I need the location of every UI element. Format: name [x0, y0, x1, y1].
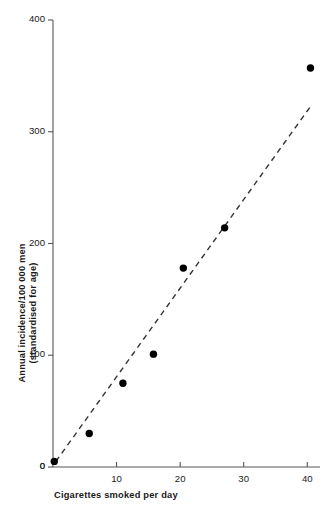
x-tick-label: 20: [165, 473, 195, 484]
x-axis-label: Cigarettes smoked per day: [54, 490, 178, 500]
origin-tick-label: 0: [3, 460, 45, 471]
x-tick-label: 40: [292, 473, 322, 484]
x-tick-label: 10: [102, 473, 132, 484]
y-axis-label-line-1: Annual incidence/100 000 men: [17, 243, 28, 382]
x-tick-label: 30: [229, 473, 259, 484]
data-point-marker: [150, 350, 157, 357]
y-tick-label: 100: [3, 348, 45, 359]
data-point-marker: [119, 379, 126, 386]
data-point-marker: [86, 430, 93, 437]
trend-line-segment: [56, 104, 313, 462]
data-point-marker: [307, 64, 314, 71]
y-tick-label: 200: [3, 237, 45, 248]
chart-figure: Annual incidence/100 000 men (standardis…: [0, 0, 334, 513]
data-point-marker: [51, 458, 58, 465]
data-points: [51, 64, 315, 465]
y-tick-label: 300: [3, 125, 45, 136]
trend-line: [56, 104, 313, 462]
y-axis-ticks: [48, 20, 53, 467]
y-tick-label: 400: [3, 13, 45, 24]
data-point-marker: [221, 224, 228, 231]
y-axis-label: Annual incidence/100 000 men (standardis…: [15, 223, 41, 403]
x-axis-ticks: [117, 462, 308, 467]
data-point-marker: [180, 264, 187, 271]
scatter-plot-canvas: [0, 0, 334, 513]
